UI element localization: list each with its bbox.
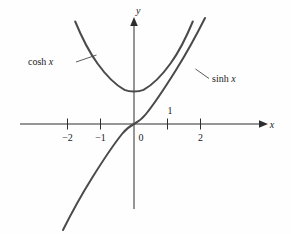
- y-axis-arrowhead: [130, 17, 138, 26]
- plot-canvas: x y −2 −1 0 1 2 cosh x sinh x: [0, 0, 291, 234]
- sinh-leader-line: [196, 69, 210, 79]
- x-tick-label-2: 2: [198, 132, 203, 143]
- cosh-label: cosh x: [28, 56, 54, 67]
- x-axis-label: x: [269, 119, 275, 130]
- cosh-label-variable: x: [48, 56, 54, 67]
- x-tick-label-zero: 0: [139, 132, 144, 143]
- sinh-label-variable: x: [230, 73, 236, 84]
- y-axis-label: y: [135, 5, 141, 16]
- x-tick-label-neg1: −1: [95, 132, 106, 143]
- x-tick-label-1: 1: [168, 105, 173, 116]
- x-axis-arrowhead: [259, 120, 268, 128]
- hyperbolic-functions-figure: x y −2 −1 0 1 2 cosh x sinh x: [0, 0, 291, 234]
- sinh-label: sinh x: [212, 73, 236, 84]
- sinh-label-text: sinh: [212, 73, 229, 84]
- x-tick-label-neg2: −2: [62, 132, 73, 143]
- cosh-label-text: cosh: [28, 56, 46, 67]
